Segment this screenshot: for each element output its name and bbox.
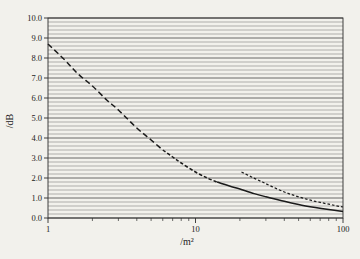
- y-tick-label: 1.0: [31, 193, 42, 203]
- y-tick-label: 10.0: [27, 13, 42, 23]
- y-tick-label: 7.0: [31, 73, 42, 83]
- y-tick-label: 4.0: [31, 133, 42, 143]
- scanned-chart-figure: 0.01.02.03.04.05.06.07.08.09.010.0110100…: [0, 0, 360, 259]
- y-tick-label: 8.0: [31, 53, 42, 63]
- y-tick-label: 5.0: [31, 113, 42, 123]
- chart-canvas: 0.01.02.03.04.05.06.07.08.09.010.0110100: [0, 0, 360, 259]
- x-axis-label: /m²: [156, 237, 218, 247]
- y-tick-label: 9.0: [31, 33, 42, 43]
- x-tick-label: 10: [191, 224, 200, 234]
- y-tick-label: 3.0: [31, 153, 42, 163]
- y-tick-label: 0.0: [31, 213, 42, 223]
- y-axis-label: /dB: [0, 111, 22, 131]
- x-tick-label: 1: [46, 224, 50, 234]
- y-tick-label: 2.0: [31, 173, 42, 183]
- main-attenuation-curve-segment: [217, 182, 343, 211]
- x-tick-label: 100: [337, 224, 350, 234]
- y-tick-label: 6.0: [31, 93, 42, 103]
